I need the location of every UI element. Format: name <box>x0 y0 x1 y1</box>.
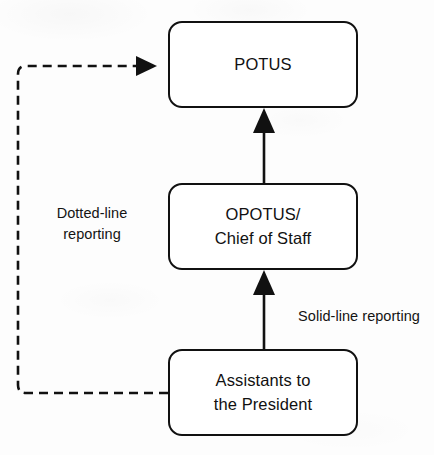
node-opotus-chief-of-staff[interactable]: OPOTUS/ Chief of Staff <box>168 183 358 270</box>
node-potus-label: POTUS <box>234 53 291 76</box>
edge-assistants-to-potus-arrowhead <box>136 56 157 76</box>
edge-opotus-to-potus-arrowhead <box>253 108 275 133</box>
solid-line-reporting-label: Solid-line reporting <box>291 306 427 327</box>
node-assistants-to-the-president[interactable]: Assistants to the President <box>168 349 358 436</box>
node-assistants-label: Assistants to the President <box>214 369 313 416</box>
dotted-line-reporting-label: Dotted-line reporting <box>34 203 150 245</box>
edge-assistants-to-opotus <box>253 270 275 349</box>
node-potus[interactable]: POTUS <box>168 21 358 108</box>
edge-assistants-to-opotus-arrowhead <box>253 270 275 295</box>
edge-opotus-to-potus <box>253 108 275 183</box>
org-chart-diagram: POTUS OPOTUS/ Chief of Staff Assistants … <box>0 0 434 455</box>
node-opotus-label: OPOTUS/ Chief of Staff <box>215 203 311 250</box>
